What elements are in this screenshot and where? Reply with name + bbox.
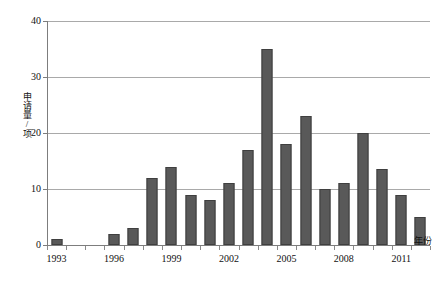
bar[interactable] [357, 133, 368, 245]
bar-slot [85, 21, 104, 245]
bar[interactable] [109, 234, 120, 245]
bar-slot [200, 21, 219, 245]
bar[interactable] [262, 49, 273, 245]
x-tick-mark [296, 246, 297, 250]
x-tick-mark [66, 246, 67, 250]
x-tick-label: 2008 [324, 253, 364, 265]
x-tick-mark [104, 246, 105, 250]
bar-slot [162, 21, 181, 245]
bar-slot [124, 21, 143, 245]
bar-slot [277, 21, 296, 245]
x-tick-mark [239, 246, 240, 250]
bar-slot [373, 21, 392, 245]
bar[interactable] [300, 116, 311, 245]
bar[interactable] [396, 195, 407, 245]
x-tick-label: 1999 [151, 253, 191, 265]
x-tick-mark [200, 246, 201, 250]
x-tick-mark [353, 246, 354, 250]
bar[interactable] [243, 150, 254, 245]
x-axis-tick-marks [47, 246, 430, 251]
x-tick-mark [143, 246, 144, 250]
bar-slot [66, 21, 85, 245]
y-tick-label: 0 [17, 240, 41, 250]
bar-slot [296, 21, 315, 245]
bar-slot [47, 21, 66, 245]
x-tick-label: 1993 [37, 253, 77, 265]
x-tick-mark [162, 246, 163, 250]
bar-chart: 010203040 1993199619992002200520082011 申… [0, 0, 448, 286]
x-tick-mark [277, 246, 278, 250]
x-axis-tick-labels: 1993199619992002200520082011 [47, 253, 430, 269]
x-tick-mark [373, 246, 374, 250]
bar-slot [104, 21, 123, 245]
bar-slot [239, 21, 258, 245]
x-axis-title: 年份 [414, 236, 432, 247]
y-tick-label: 30 [17, 72, 41, 82]
bar[interactable] [185, 195, 196, 245]
bar-slot [334, 21, 353, 245]
x-tick-mark [124, 246, 125, 250]
bar-slot [315, 21, 334, 245]
bar-slot [411, 21, 430, 245]
bar[interactable] [281, 144, 292, 245]
x-tick-mark [411, 246, 412, 250]
bar-slot [258, 21, 277, 245]
x-tick-mark [85, 246, 86, 250]
x-tick-mark [392, 246, 393, 250]
bar[interactable] [147, 178, 158, 245]
x-tick-mark [181, 246, 182, 250]
x-tick-label: 2011 [381, 253, 421, 265]
x-tick-label: 1996 [94, 253, 134, 265]
x-tick-mark [258, 246, 259, 250]
bar-slot [392, 21, 411, 245]
x-tick-mark [219, 246, 220, 250]
x-tick-mark [315, 246, 316, 250]
x-tick-mark [334, 246, 335, 250]
y-axis-title: 申请量/项 [18, 92, 32, 138]
y-tick-label: 40 [17, 16, 41, 26]
y-tick-label: 10 [17, 184, 41, 194]
bar[interactable] [377, 169, 388, 245]
x-tick-label: 2005 [266, 253, 306, 265]
bar[interactable] [204, 200, 215, 245]
x-tick-mark [47, 246, 48, 250]
bars-layer [47, 21, 430, 245]
bar[interactable] [338, 183, 349, 245]
bar[interactable] [128, 228, 139, 245]
bar-slot [353, 21, 372, 245]
bar[interactable] [319, 189, 330, 245]
bar-slot [143, 21, 162, 245]
x-tick-label: 2002 [209, 253, 249, 265]
bar[interactable] [223, 183, 234, 245]
bar-slot [181, 21, 200, 245]
bar-slot [219, 21, 238, 245]
bar[interactable] [166, 167, 177, 245]
